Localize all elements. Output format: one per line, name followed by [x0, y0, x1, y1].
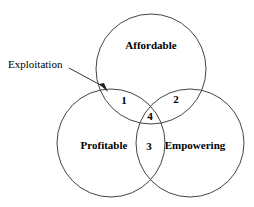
set-label-profitable: Profitable	[81, 139, 128, 151]
region-number-3: 3	[146, 140, 152, 152]
set-label-affordable: Affordable	[125, 39, 176, 51]
diagram-canvas: Affordable Profitable Empowering 1 2 3 4…	[0, 0, 254, 207]
annotation-label-exploitation: Exploitation	[8, 58, 63, 70]
region-number-2: 2	[173, 93, 179, 105]
circle-affordable	[96, 14, 206, 124]
set-label-empowering: Empowering	[165, 139, 226, 151]
region-number-4: 4	[147, 110, 153, 122]
region-number-1: 1	[121, 94, 127, 106]
venn-diagram: Affordable Profitable Empowering 1 2 3 4…	[0, 0, 254, 207]
